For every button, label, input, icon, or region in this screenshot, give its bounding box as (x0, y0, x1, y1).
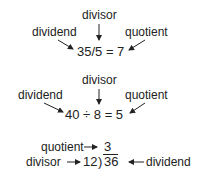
arrow-quotient-1 (129, 40, 145, 50)
equation-obelus: 40 ÷ 8 = 5 (65, 108, 123, 121)
dividend-label: dividend (32, 26, 77, 38)
arrow-quotient-2 (130, 103, 145, 113)
arrow-dividend-1 (58, 40, 73, 49)
quotient-value: 3 (104, 140, 111, 153)
arrow-dividend-2 (44, 103, 63, 112)
long-division-bracket: ) (98, 155, 102, 168)
quotient-label: quotient (41, 141, 84, 153)
dividend-label: dividend (18, 89, 63, 101)
quotient-label: quotient (125, 89, 168, 101)
divisor-value: 12 (83, 155, 97, 168)
dividend-value: 36 (103, 154, 118, 168)
equation-slash: 35/5 = 7 (77, 45, 124, 58)
quotient-label: quotient (125, 26, 168, 38)
divisor-label: divisor (82, 74, 117, 86)
dividend-label: dividend (146, 156, 191, 168)
divisor-label: divisor (26, 156, 61, 168)
division-terms-diagram: divisor dividend quotient 35/5 = 7 divis… (0, 0, 198, 176)
divisor-label: divisor (82, 9, 117, 21)
